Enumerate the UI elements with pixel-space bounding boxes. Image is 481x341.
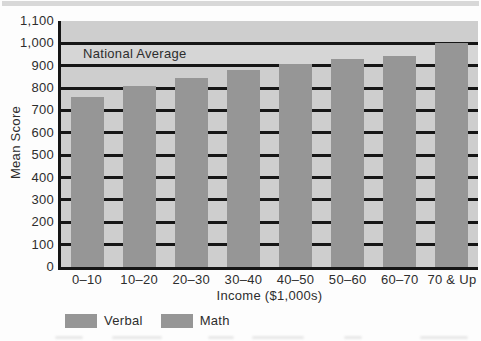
bar-70 & Up: [435, 43, 468, 267]
page-top-rule: [2, 1, 479, 6]
x-tick-20–30: 20–30: [165, 272, 217, 287]
y-tick-100: 100: [0, 237, 54, 253]
scanned-chart-page: Mean Score 01002003004005006007008009001…: [0, 0, 481, 341]
legend: VerbalMath: [65, 313, 230, 328]
bar-slot-50–60: [322, 21, 374, 267]
legend-swatch-verbal: [65, 314, 97, 328]
y-tick-500: 500: [0, 147, 54, 163]
y-tick-0: 0: [0, 259, 54, 275]
x-tick-50–60: 50–60: [322, 272, 374, 287]
y-tick-400: 400: [0, 170, 54, 186]
x-tick-30–40: 30–40: [217, 272, 269, 287]
bar-slot-60–70: [374, 21, 426, 267]
y-tick-1,100: 1,100: [0, 13, 54, 29]
x-axis-title: Income ($1,000s): [61, 288, 478, 303]
bar-50–60: [331, 59, 364, 267]
bar-slot-70 & Up: [426, 21, 478, 267]
bar-0–10: [71, 97, 104, 267]
legend-swatch-math: [161, 314, 193, 328]
bar-60–70: [383, 56, 416, 267]
y-tick-200: 200: [0, 214, 54, 230]
x-axis-tick-labels: 0–1010–2020–3030–4040–5050–6060–7070 & U…: [61, 272, 478, 287]
y-tick-700: 700: [0, 102, 54, 118]
national-average-label: National Average: [83, 46, 187, 61]
legend-item-math: Math: [161, 313, 230, 328]
y-tick-300: 300: [0, 192, 54, 208]
x-tick-0–10: 0–10: [61, 272, 113, 287]
bar-slot-40–50: [270, 21, 322, 267]
cut-off-caption-text: [0, 334, 481, 341]
y-tick-1,000: 1,000: [0, 35, 54, 51]
legend-label-verbal: Verbal: [104, 313, 143, 328]
x-tick-40–50: 40–50: [270, 272, 322, 287]
bar-10–20: [123, 86, 156, 267]
legend-item-verbal: Verbal: [65, 313, 143, 328]
x-tick-70 & Up: 70 & Up: [426, 272, 478, 287]
plot-area: National Average: [58, 21, 478, 270]
bar-40–50: [279, 64, 312, 268]
legend-label-math: Math: [200, 313, 230, 328]
bar-30–40: [227, 70, 260, 267]
bar-slot-30–40: [217, 21, 269, 267]
y-tick-600: 600: [0, 125, 54, 141]
bar-20–30: [175, 78, 208, 267]
y-tick-900: 900: [0, 58, 54, 74]
y-tick-800: 800: [0, 80, 54, 96]
x-tick-10–20: 10–20: [113, 272, 165, 287]
x-tick-60–70: 60–70: [374, 272, 426, 287]
